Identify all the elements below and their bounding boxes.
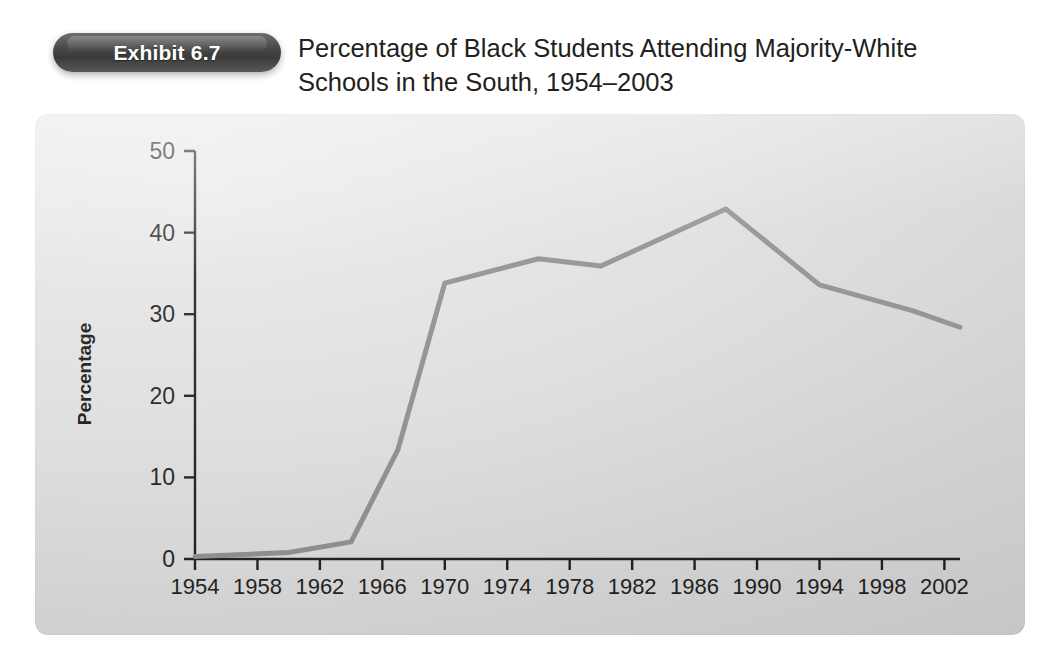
page-title: Percentage of Black Students Attending M… [298,31,998,99]
x-tick-label: 1970 [420,574,469,599]
y-tick-label: 0 [162,546,175,572]
x-axis-ticks: 1954195819621966197019741978198219861990… [171,559,969,599]
x-tick-label: 1966 [358,574,407,599]
x-tick-label: 1954 [171,574,220,599]
x-tick-label: 1990 [733,574,782,599]
page-title-line-2: Schools in the South, 1954–2003 [298,65,998,99]
y-tick-label: 20 [149,383,175,409]
x-tick-label: 1978 [545,574,594,599]
exhibit-badge: Exhibit 6.7 [53,33,281,72]
y-tick-label: 10 [149,464,175,490]
y-tick-label: 30 [149,301,175,327]
exhibit-header: Exhibit 6.7 Percentage of Black Students… [0,0,1053,112]
y-axis-ticks: 01020304050 [149,138,195,572]
x-tick-label: 1982 [608,574,657,599]
exhibit-badge-label: Exhibit 6.7 [113,41,220,65]
line-chart: 01020304050 1954195819621966197019741978… [35,114,1025,635]
y-tick-label: 50 [149,138,175,164]
x-tick-label: 1974 [483,574,532,599]
x-tick-label: 1958 [233,574,282,599]
x-tick-label: 1994 [795,574,844,599]
x-tick-label: 1986 [670,574,719,599]
chart-series-group [195,209,960,557]
y-axis-title: Percentage [74,323,95,425]
data-line-series-0 [195,209,960,557]
page-title-line-1: Percentage of Black Students Attending M… [298,31,998,65]
chart-axes [195,151,960,559]
x-tick-label: 1998 [857,574,906,599]
y-tick-label: 40 [149,220,175,246]
chart-panel: 01020304050 1954195819621966197019741978… [35,114,1025,635]
x-tick-label: 2002 [920,574,969,599]
x-tick-label: 1962 [295,574,344,599]
